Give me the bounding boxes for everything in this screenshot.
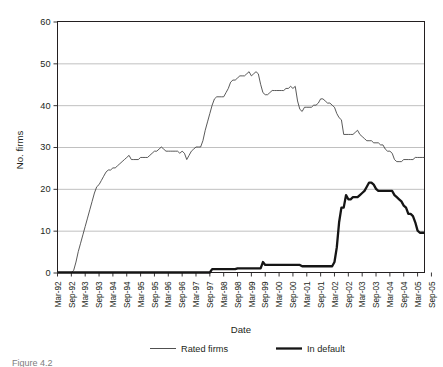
x-axis-ticks: Mar-92Sep-92Mar-93Sep-93Mar-94Sep-94Mar-… [54,273,437,308]
x-tick-label-Mar-00: Mar-00 [275,281,284,307]
x-tick-label-Sep-01: Sep-01 [317,281,326,308]
x-tick-label-Sep-96: Sep-96 [178,281,187,308]
figure-caption: Figure 4.2 [12,358,53,367]
gridlines [58,64,425,231]
y-axis-title: No. firms [14,131,25,170]
x-tick-label-Mar-95: Mar-95 [137,281,146,307]
x-tick-label-Sep-92: Sep-92 [68,281,77,308]
series-line-in-default [58,183,425,273]
y-tick-label-50: 50 [40,59,50,69]
y-axis-ticks: 0102030405060 [40,17,57,278]
x-tick-label-Mar-05: Mar-05 [414,281,423,307]
x-axis-title: Date [231,324,251,335]
figure-container: 0102030405060 Mar-92Sep-92Mar-93Sep-93Ma… [0,0,443,367]
x-tick-label-Mar-97: Mar-97 [192,281,201,307]
y-tick-label-40: 40 [40,101,50,111]
x-tick-label-Mar-04: Mar-04 [386,281,395,307]
x-tick-label-Mar-99: Mar-99 [248,281,257,307]
x-tick-label-Sep-00: Sep-00 [289,281,298,308]
x-tick-label-Sep-98: Sep-98 [234,281,243,308]
y-tick-label-10: 10 [40,226,50,236]
x-tick-label-Mar-93: Mar-93 [81,281,90,307]
x-tick-label-Sep-02: Sep-02 [345,281,354,308]
x-tick-label-Sep-95: Sep-95 [151,281,160,308]
x-tick-label-Sep-05: Sep-05 [428,281,437,308]
x-tick-label-Mar-94: Mar-94 [109,281,118,307]
x-tick-label-Sep-04: Sep-04 [400,281,409,308]
legend: Rated firms In default [150,344,345,354]
y-tick-label-20: 20 [40,184,50,194]
x-tick-label-Sep-97: Sep-97 [206,281,215,308]
legend-label-rated-firms: Rated firms [181,344,228,354]
x-tick-label-Mar-03: Mar-03 [358,281,367,307]
x-tick-label-Mar-98: Mar-98 [220,281,229,307]
x-tick-label-Sep-03: Sep-03 [372,281,381,308]
y-tick-label-0: 0 [45,268,50,278]
x-tick-label-Mar-92: Mar-92 [54,281,63,307]
x-tick-label-Sep-93: Sep-93 [95,281,104,308]
y-tick-label-30: 30 [40,142,50,152]
x-tick-label-Mar-01: Mar-01 [303,281,312,307]
line-chart: 0102030405060 Mar-92Sep-92Mar-93Sep-93Ma… [0,0,443,367]
figure-caption-text: Figure 4.2 [12,358,53,367]
y-tick-label-60: 60 [40,17,50,27]
legend-label-in-default: In default [307,344,345,354]
x-tick-label-Mar-02: Mar-02 [331,281,340,307]
x-tick-label-Sep-99: Sep-99 [261,281,270,308]
x-tick-label-Mar-96: Mar-96 [164,281,173,307]
x-tick-label-Sep-94: Sep-94 [123,281,132,308]
series-line-rated-firms [58,72,425,273]
